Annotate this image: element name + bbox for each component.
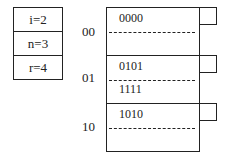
overflow-pointer-box [199,7,217,25]
bucket-00: 0000 [106,7,200,56]
overflow-pointer-box [199,55,217,73]
record: 1111 [119,82,142,97]
bucket-01: 0101 1111 [106,55,200,104]
dashed-divider [109,80,195,81]
record: 1010 [119,107,143,122]
bucket-10: 1010 [106,103,200,152]
dashed-divider [109,32,195,33]
record: 0000 [119,11,143,26]
record: 0101 [119,59,143,74]
dashed-divider [109,128,195,129]
param-n: n=3 [14,31,62,55]
parameter-table: i=2 n=3 r=4 [13,7,63,80]
bucket-label-00: 00 [82,24,95,40]
overflow-pointer-box [199,103,217,121]
param-r: r=4 [14,55,62,79]
bucket-label-01: 01 [82,70,95,86]
bucket-label-10: 10 [82,119,95,135]
param-i: i=2 [14,8,62,31]
